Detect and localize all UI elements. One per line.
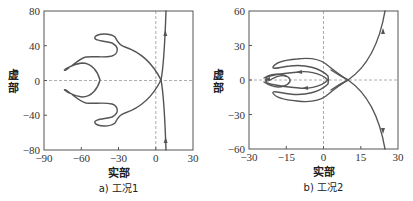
plot-a: 80 40 0 −40 −80 −90 −60 −30 0 30 实部 虚 部 … [8, 5, 200, 194]
x-axis-label: 实部 [313, 165, 335, 179]
locus-left-arc [331, 80, 348, 90]
direction-arrow-icon [163, 30, 167, 36]
ytick-label: −40 [23, 109, 41, 121]
y-axis-label-top: 虚 [213, 68, 224, 82]
plot-caption: b) 工况2 [304, 182, 344, 193]
xtick-label: −15 [278, 151, 296, 163]
ytick-label: 80 [29, 5, 41, 17]
ytick-label: 0 [35, 75, 41, 87]
locus-complex-branch [64, 34, 161, 126]
ytick-label: 60 [234, 5, 246, 17]
xtick-label: 0 [153, 152, 159, 164]
plot-caption: a) 工况1 [99, 183, 139, 194]
locus-left-arc [331, 70, 348, 80]
xtick-label: −60 [73, 152, 91, 164]
tick-marks [44, 46, 156, 150]
plot-b: 60 30 0 −30 −60 −30 −15 0 15 30 实部 虚 部 b… [213, 5, 405, 193]
xtick-label: −90 [35, 152, 53, 164]
tick-marks [249, 46, 361, 150]
xtick-label: 0 [321, 151, 327, 163]
ytick-label: 40 [29, 40, 41, 52]
y-axis-label-bottom: 部 [213, 81, 224, 95]
figure: 80 40 0 −40 −80 −90 −60 −30 0 30 实部 虚 部 … [0, 0, 413, 201]
xtick-label: −30 [110, 152, 128, 164]
ytick-label: 0 [240, 74, 246, 86]
xtick-label: 30 [393, 151, 405, 163]
direction-arrow-icon [302, 86, 308, 90]
x-axis-label: 实部 [108, 166, 130, 180]
direction-arrow-icon [296, 70, 302, 74]
xtick-label: −30 [240, 151, 258, 163]
xtick-label: 15 [355, 151, 367, 163]
y-axis-label-bottom: 部 [8, 81, 19, 95]
xtick-label: 30 [188, 152, 200, 164]
y-axis-label-top: 虚 [8, 68, 19, 82]
ytick-label: 30 [234, 40, 246, 52]
ytick-label: −30 [228, 109, 246, 121]
direction-arrow-icon [164, 137, 168, 143]
